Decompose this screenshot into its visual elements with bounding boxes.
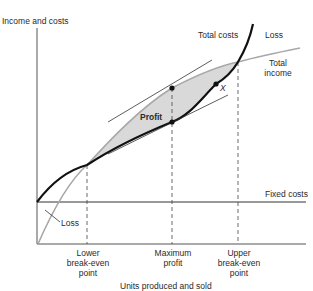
lower-break-even-line2: break-even [62,258,114,268]
lower-break-even-line1: Lower [62,248,114,258]
total-income-line2: income [258,68,298,78]
fixed-costs-label: Fixed costs [265,189,308,199]
loss-pointer-line [45,210,60,222]
profit-region [87,62,238,165]
upper-break-even-line1: Upper [212,248,266,258]
loss-lower-label: Loss [61,218,79,228]
x-point-label: X [220,83,226,93]
lower-break-even-label: Lower break-even point [62,248,114,278]
upper-break-even-label: Upper break-even point [212,248,266,278]
total-income-label: Total income [258,58,298,78]
x-axis-label: Units produced and sold [120,281,212,291]
maximum-profit-line1: Maximum [148,248,198,258]
upper-break-even-line3: point [212,268,266,278]
y-axis-label: Income and costs [2,16,69,26]
maximum-profit-label: Maximum profit [148,248,198,268]
x-point-dot [213,81,218,86]
maximum-profit-line2: profit [148,258,198,268]
lower-break-even-line3: point [62,268,114,278]
max-cost-dot [169,119,174,124]
upper-break-even-line2: break-even [212,258,266,268]
total-costs-label: Total costs [198,30,238,40]
max-income-dot [169,85,174,90]
profit-label: Profit [140,112,162,122]
total-income-line1: Total [258,58,298,68]
loss-upper-label: Loss [265,30,283,40]
